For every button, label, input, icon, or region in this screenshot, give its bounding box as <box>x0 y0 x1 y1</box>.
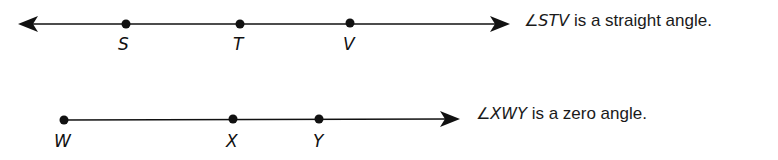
point-t <box>236 20 245 29</box>
angle-name: XWY <box>490 104 527 123</box>
line-stv: S T V <box>18 16 510 54</box>
caption-zero-angle: ∠XWY is a zero angle. <box>476 104 647 124</box>
caption-straight-angle: ∠STV is a straight angle. <box>524 11 712 31</box>
caption-text: is a zero angle. <box>527 104 647 123</box>
label-y: Y <box>313 131 325 151</box>
point-v <box>346 19 355 28</box>
label-s: S <box>118 34 129 54</box>
label-v: V <box>343 34 356 54</box>
label-w: W <box>54 131 72 151</box>
angle-symbol: ∠ <box>524 11 538 30</box>
point-x <box>229 115 238 124</box>
label-t: T <box>233 34 245 54</box>
point-y <box>315 115 324 124</box>
ray-xwy: W X Y <box>54 111 460 151</box>
point-w <box>60 116 69 125</box>
caption-text: is a straight angle. <box>569 11 712 30</box>
angle-name: STV <box>538 11 569 30</box>
angle-symbol: ∠ <box>476 104 490 123</box>
label-x: X <box>225 131 238 151</box>
angle-diagram: S T V W X Y ∠STV is a straight angle. ∠X… <box>0 0 778 160</box>
point-s <box>122 20 131 29</box>
